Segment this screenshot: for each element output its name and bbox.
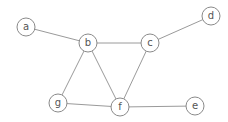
nodes-layer: abcdefg (17, 7, 220, 116)
node-label: e (192, 100, 198, 111)
edge-b-f (88, 43, 120, 107)
node-f: f (111, 98, 129, 116)
edge-f-e (120, 106, 195, 107)
edge-c-d (150, 16, 211, 43)
edge-a-b (26, 27, 88, 43)
node-label: c (147, 37, 153, 48)
node-label: g (55, 97, 61, 108)
graph-diagram: abcdefg (0, 0, 228, 122)
edge-b-g (58, 43, 88, 103)
edges-layer (26, 16, 211, 107)
node-e: e (186, 97, 204, 115)
node-label: d (208, 10, 214, 21)
node-g: g (49, 94, 67, 112)
node-label: a (23, 21, 29, 32)
node-d: d (202, 7, 220, 25)
node-label: b (85, 37, 91, 48)
node-c: c (141, 34, 159, 52)
node-label: f (118, 101, 122, 112)
edge-c-f (120, 43, 150, 107)
node-b: b (79, 34, 97, 52)
node-a: a (17, 18, 35, 36)
